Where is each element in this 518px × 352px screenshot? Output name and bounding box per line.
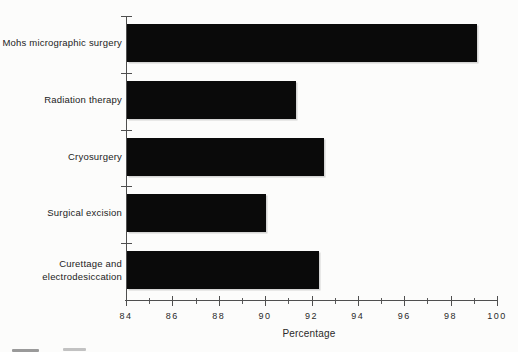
x-axis-minor-tick <box>335 298 336 304</box>
x-axis-minor-tick <box>427 298 428 304</box>
x-axis-minor-tick <box>288 298 289 304</box>
x-axis-minor-tick <box>149 298 150 304</box>
x-axis-tick-label: 98 <box>444 311 457 321</box>
x-axis-tick-label: 100 <box>487 311 507 321</box>
category-label-radiation-therapy: Radiation therapy <box>44 94 122 106</box>
x-axis-major-tick <box>404 296 405 306</box>
x-axis-tick-label: 94 <box>351 311 364 321</box>
x-axis-tick-label: 88 <box>212 311 225 321</box>
x-axis-major-tick <box>219 296 220 306</box>
cutoff-caption-fragment <box>63 348 86 351</box>
x-axis-line <box>125 300 498 301</box>
x-axis-minor-tick <box>381 298 382 304</box>
x-axis-tick-label: 96 <box>398 311 411 321</box>
bar-curettage-and-electrodesiccation <box>127 251 319 289</box>
x-axis-major-tick <box>451 296 452 306</box>
category-label-curettage-and-electrodesiccation: Curettage and electrodesiccation <box>42 258 122 283</box>
bar-cryosurgery <box>127 138 324 176</box>
category-label-mohs-micrographic-surgery: Mohs micrographic surgery <box>2 37 122 49</box>
x-axis-tick-label: 84 <box>119 311 132 321</box>
x-axis-minor-tick <box>474 298 475 304</box>
x-axis-title: Percentage <box>282 328 335 339</box>
x-axis-major-tick <box>358 296 359 306</box>
x-axis-tick-label: 86 <box>166 311 179 321</box>
category-label-surgical-excision: Surgical excision <box>47 207 122 219</box>
bar-radiation-therapy <box>127 81 296 119</box>
x-axis-major-tick <box>172 296 173 306</box>
x-axis-minor-tick <box>196 298 197 304</box>
bar-surgical-excision <box>127 194 266 232</box>
bar-mohs-micrographic-surgery <box>127 24 477 62</box>
x-axis-tick-label: 92 <box>305 311 318 321</box>
x-axis-tick-label: 90 <box>259 311 272 321</box>
x-axis-major-tick <box>497 296 498 306</box>
x-axis-minor-tick <box>242 298 243 304</box>
x-axis-major-tick <box>312 296 313 306</box>
x-axis-major-tick <box>265 296 266 306</box>
y-axis-line <box>126 16 127 300</box>
category-label-cryosurgery: Cryosurgery <box>68 150 122 162</box>
scanned-bar-chart-figure: Mohs micrographic surgeryRadiation thera… <box>0 0 518 352</box>
